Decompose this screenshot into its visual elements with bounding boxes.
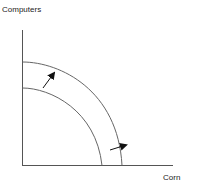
- shift-arrow-upper-icon: [43, 73, 54, 88]
- ppf-diagram: [0, 0, 200, 187]
- outer-ppf-curve: [23, 62, 123, 166]
- inner-ppf-curve: [23, 88, 103, 166]
- shift-arrow-lower-icon: [110, 145, 126, 150]
